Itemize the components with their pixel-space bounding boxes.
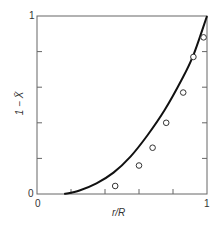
y-tick-top: 1 (29, 11, 35, 21)
x-axis-title: r/R (112, 207, 125, 218)
data-point-marker (136, 163, 142, 169)
data-points (112, 35, 206, 189)
y-axis-title: 1 − X̄ (14, 92, 25, 116)
plot-frame (37, 16, 207, 194)
data-point-marker (112, 183, 118, 189)
data-point-marker (163, 120, 169, 126)
x-tick-left: 0 (35, 199, 41, 209)
model-curve (64, 16, 207, 194)
data-point-marker (180, 90, 186, 96)
data-point-marker (150, 145, 156, 151)
tick-marks (37, 52, 207, 194)
data-point-marker (201, 35, 207, 41)
y-tick-bottom: 0 (28, 189, 34, 199)
data-point-marker (191, 54, 197, 60)
x-tick-right: 1 (204, 199, 210, 209)
